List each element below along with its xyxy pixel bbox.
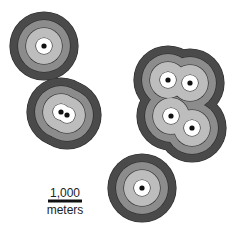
scale-bar: 1,000 meters [47, 186, 84, 217]
scale-bar-unit: meters [47, 203, 84, 217]
buffer-right-cluster-point-icon [168, 113, 173, 118]
buffer-right-cluster-point-icon [189, 125, 194, 130]
buffer-right-cluster-point-icon [165, 77, 170, 82]
scale-bar-value: 1,000 [50, 186, 80, 200]
buffer-top-left-point-icon [41, 43, 46, 48]
buffer-map: 1,000 meters [0, 0, 241, 235]
buffer-bottom-point-icon [139, 185, 144, 190]
buffer-right-cluster-point-icon [187, 80, 192, 85]
buffer-middle-left-point-icon [58, 109, 63, 114]
buffer-middle-left-point-icon [64, 112, 69, 117]
